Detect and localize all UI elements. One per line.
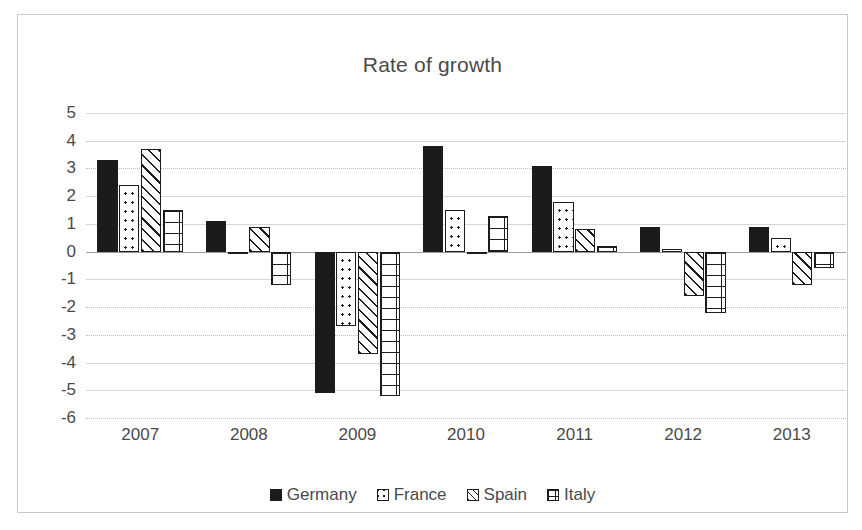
y-tick-label-neg3: -3 <box>61 325 76 345</box>
bar-spain-2012 <box>684 252 704 296</box>
bar-italy-2007 <box>163 210 183 252</box>
gridline--5 <box>86 390 846 391</box>
bar-germany-2012 <box>640 227 660 252</box>
gridline--6 <box>86 418 846 419</box>
x-tick-label-2012: 2012 <box>664 425 702 445</box>
gridline--3 <box>86 335 846 336</box>
x-tick-label-2010: 2010 <box>447 425 485 445</box>
legend-item-spain[interactable]: Spain <box>467 485 527 505</box>
legend-swatch-italy-icon <box>547 489 559 501</box>
bar-france-2011 <box>553 202 573 252</box>
gridline-5 <box>86 113 846 114</box>
y-tick-label-2: 2 <box>67 186 76 206</box>
bar-germany-2008 <box>206 221 226 252</box>
x-tick-label-2009: 2009 <box>339 425 377 445</box>
bar-germany-2011 <box>532 166 552 252</box>
plot-area: 543210-1-2-3-4-5-6 200720082009201020112… <box>86 113 846 418</box>
y-tick-label-neg4: -4 <box>61 353 76 373</box>
bar-italy-2011 <box>597 246 617 252</box>
bar-france-2010 <box>445 210 465 252</box>
legend-item-germany[interactable]: Germany <box>270 485 357 505</box>
y-tick-label-0: 0 <box>67 242 76 262</box>
y-tick-label-neg5: -5 <box>61 380 76 400</box>
bar-spain-2013 <box>792 252 812 285</box>
bar-germany-2009 <box>315 252 335 393</box>
x-tick-label-2007: 2007 <box>121 425 159 445</box>
legend-swatch-france-icon <box>377 489 389 501</box>
bar-germany-2013 <box>749 227 769 252</box>
y-tick-label-5: 5 <box>67 103 76 123</box>
bar-italy-2008 <box>271 252 291 285</box>
gridline--2 <box>86 307 846 308</box>
y-tick-label-4: 4 <box>67 131 76 151</box>
bar-italy-2009 <box>380 252 400 396</box>
gridline-1 <box>86 224 846 225</box>
legend-swatch-spain-icon <box>467 489 479 501</box>
bar-spain-2008 <box>249 227 269 252</box>
bar-spain-2007 <box>141 149 161 252</box>
legend-label-france: France <box>394 485 447 505</box>
bar-france-2013 <box>771 238 791 252</box>
gridline-4 <box>86 141 846 142</box>
bar-spain-2010 <box>467 252 487 255</box>
bar-france-2008 <box>228 252 248 255</box>
bar-france-2007 <box>119 185 139 252</box>
bar-italy-2010 <box>488 216 508 252</box>
chart-frame: Rate of growth 543210-1-2-3-4-5-6 200720… <box>17 14 848 513</box>
bar-spain-2009 <box>358 252 378 355</box>
legend-label-italy: Italy <box>564 485 595 505</box>
y-tick-label-neg1: -1 <box>61 269 76 289</box>
legend-label-germany: Germany <box>287 485 357 505</box>
y-tick-label-1: 1 <box>67 214 76 234</box>
x-tick-label-2008: 2008 <box>230 425 268 445</box>
bar-germany-2010 <box>423 146 443 251</box>
gridline--4 <box>86 363 846 364</box>
bar-italy-2012 <box>705 252 725 313</box>
y-tick-label-neg2: -2 <box>61 297 76 317</box>
gridline-2 <box>86 196 846 197</box>
bar-germany-2007 <box>97 160 117 252</box>
legend-item-italy[interactable]: Italy <box>547 485 595 505</box>
bar-france-2009 <box>336 252 356 327</box>
x-tick-label-2013: 2013 <box>773 425 811 445</box>
gridline-3 <box>86 168 846 169</box>
y-tick-label-neg6: -6 <box>61 408 76 428</box>
x-tick-label-2011: 2011 <box>556 425 593 445</box>
gridline--1 <box>86 279 846 280</box>
bar-france-2012 <box>662 249 682 252</box>
legend-label-spain: Spain <box>484 485 527 505</box>
bar-spain-2011 <box>575 229 595 251</box>
legend-swatch-germany-icon <box>270 489 282 501</box>
y-tick-label-3: 3 <box>67 158 76 178</box>
bar-italy-2013 <box>814 252 834 269</box>
chart-title: Rate of growth <box>18 53 847 77</box>
legend-item-france[interactable]: France <box>377 485 447 505</box>
chart-legend: GermanyFranceSpainItaly <box>18 485 847 505</box>
